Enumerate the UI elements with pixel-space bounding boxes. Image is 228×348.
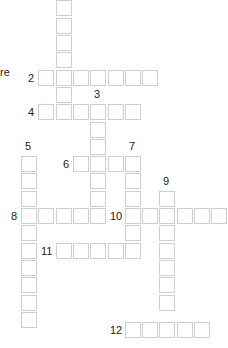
clue-number-4: 4: [28, 107, 34, 118]
crossword-cell[interactable]: [159, 322, 175, 338]
clue-number-8: 8: [11, 211, 17, 222]
crossword-cell[interactable]: [56, 87, 72, 103]
crossword-cell[interactable]: [56, 208, 72, 224]
crossword-cell[interactable]: [108, 243, 124, 259]
crossword-cell[interactable]: [125, 156, 141, 172]
crossword-cell[interactable]: [159, 260, 175, 276]
crossword-cell[interactable]: [38, 70, 54, 86]
crossword-cell[interactable]: [90, 191, 106, 207]
crossword-cell[interactable]: [56, 52, 72, 68]
crossword-cell[interactable]: [159, 225, 175, 241]
crossword-cell[interactable]: [73, 104, 89, 120]
crossword-cell[interactable]: [21, 243, 37, 259]
clue-text-fragment: re: [0, 66, 10, 78]
clue-number-12: 12: [110, 325, 122, 336]
crossword-cell[interactable]: [125, 208, 141, 224]
crossword-cell[interactable]: [194, 208, 210, 224]
crossword-cell[interactable]: [125, 243, 141, 259]
crossword-cell[interactable]: [194, 322, 210, 338]
crossword-cell[interactable]: [108, 156, 124, 172]
crossword-cell[interactable]: [90, 208, 106, 224]
crossword-cell[interactable]: [125, 191, 141, 207]
crossword-cell[interactable]: [125, 225, 141, 241]
crossword-cell[interactable]: [56, 104, 72, 120]
crossword-cell[interactable]: [21, 225, 37, 241]
crossword-cell[interactable]: [159, 277, 175, 293]
crossword-cell[interactable]: [73, 156, 89, 172]
crossword-cell[interactable]: [90, 139, 106, 155]
crossword-grid: re 23456789101112: [0, 0, 228, 348]
crossword-cell[interactable]: [90, 156, 106, 172]
clue-number-6: 6: [63, 159, 69, 170]
crossword-cell[interactable]: [159, 295, 175, 311]
clue-number-11: 11: [41, 246, 52, 257]
clue-number-7: 7: [129, 141, 135, 152]
crossword-cell[interactable]: [177, 322, 193, 338]
crossword-cell[interactable]: [56, 243, 72, 259]
crossword-cell[interactable]: [21, 312, 37, 328]
crossword-cell[interactable]: [73, 243, 89, 259]
crossword-cell[interactable]: [108, 70, 124, 86]
crossword-cell[interactable]: [73, 208, 89, 224]
crossword-cell[interactable]: [90, 122, 106, 138]
clue-number-2: 2: [28, 73, 34, 84]
crossword-cell[interactable]: [73, 70, 89, 86]
clue-number-9: 9: [163, 176, 169, 187]
crossword-cell[interactable]: [21, 277, 37, 293]
clue-number-3: 3: [94, 89, 100, 100]
crossword-cell[interactable]: [21, 156, 37, 172]
crossword-cell[interactable]: [90, 173, 106, 189]
crossword-cell[interactable]: [142, 208, 158, 224]
crossword-cell[interactable]: [108, 104, 124, 120]
crossword-cell[interactable]: [159, 243, 175, 259]
crossword-cell[interactable]: [125, 173, 141, 189]
crossword-cell[interactable]: [90, 104, 106, 120]
crossword-cell[interactable]: [38, 104, 54, 120]
crossword-cell[interactable]: [21, 260, 37, 276]
crossword-cell[interactable]: [56, 35, 72, 51]
crossword-cell[interactable]: [177, 208, 193, 224]
clue-number-10: 10: [110, 211, 122, 222]
crossword-cell[interactable]: [159, 208, 175, 224]
crossword-cell[interactable]: [21, 295, 37, 311]
crossword-cell[interactable]: [56, 70, 72, 86]
crossword-cell[interactable]: [21, 208, 37, 224]
crossword-cell[interactable]: [21, 173, 37, 189]
crossword-cell[interactable]: [56, 0, 72, 16]
crossword-cell[interactable]: [90, 70, 106, 86]
crossword-cell[interactable]: [90, 243, 106, 259]
crossword-cell[interactable]: [159, 191, 175, 207]
clue-number-5: 5: [25, 141, 31, 152]
crossword-cell[interactable]: [125, 70, 141, 86]
crossword-cell[interactable]: [142, 322, 158, 338]
crossword-cell[interactable]: [38, 208, 54, 224]
crossword-cell[interactable]: [211, 208, 227, 224]
crossword-cell[interactable]: [142, 70, 158, 86]
crossword-cell[interactable]: [56, 18, 72, 34]
crossword-cell[interactable]: [125, 104, 141, 120]
crossword-cell[interactable]: [21, 191, 37, 207]
crossword-cell[interactable]: [125, 322, 141, 338]
